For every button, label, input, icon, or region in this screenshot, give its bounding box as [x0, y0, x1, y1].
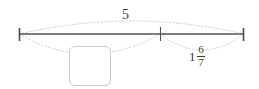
- total-length-label: 5: [122, 8, 129, 22]
- number-line-figure: 5 1 6 7: [0, 0, 259, 89]
- answer-box[interactable]: [69, 46, 111, 86]
- total-span-arc: [19, 21, 244, 34]
- fraction-numerator: 6: [197, 44, 205, 56]
- fraction-denominator: 7: [197, 57, 205, 69]
- number-line-diagram: [0, 0, 259, 89]
- mixed-number-whole-part: 1: [189, 50, 196, 63]
- fraction: 6 7: [197, 44, 205, 68]
- right-part-length-label: 1 6 7: [189, 44, 205, 68]
